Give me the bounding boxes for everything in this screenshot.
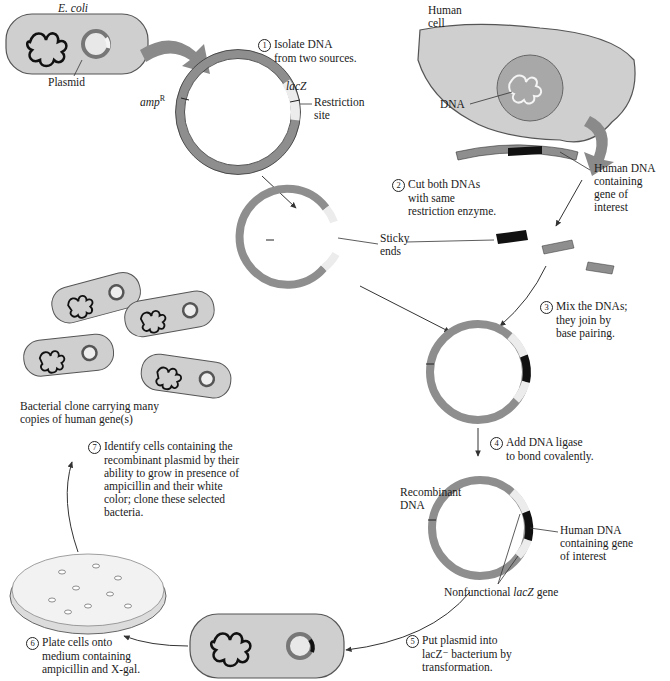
- ecoli-label: E. coli: [58, 2, 88, 15]
- step-7: 7Identify cells containing the recombina…: [88, 440, 239, 519]
- petri-plate: [10, 554, 166, 634]
- ecoli-cell: [6, 14, 148, 76]
- lacz-label: lacZ: [286, 80, 306, 93]
- nucleus: [497, 55, 563, 121]
- ampr-label: ampR: [140, 92, 165, 109]
- bacterial-clone-label: Bacterial clone carrying manycopies of h…: [20, 400, 159, 426]
- step-3: 3Mix the DNAs; they join by base pairing…: [540, 300, 628, 340]
- restriction-site-label: Restrictionsite: [314, 96, 364, 122]
- step-5: 5Put plasmid into lacZ⁻ bacterium by tra…: [406, 634, 512, 674]
- transformed-bacterium: [190, 614, 344, 678]
- plasmid-small: [83, 31, 109, 57]
- recombinant-dna-label: RecombinantDNA: [400, 486, 461, 512]
- bacterial-clone: [22, 269, 233, 400]
- human-cell: [418, 24, 635, 141]
- human-dna-goi2-label: Human DNAcontaining geneof interest: [560, 524, 633, 563]
- step-4: 4Add DNA ligase to bond covalently.: [490, 436, 594, 463]
- human-cell-label: Humancell: [428, 4, 462, 30]
- human-dna-goi-label: Human DNAcontaininggene ofinterest: [594, 162, 656, 214]
- human-dna-strand: [456, 145, 590, 170]
- sticky-ends-pointer: [338, 238, 378, 244]
- plasmid-large: [176, 50, 313, 175]
- nonfunctional-lacz-label: Nonfunctional lacZ gene: [444, 586, 558, 599]
- plasmid-label: Plasmid: [48, 76, 85, 89]
- cut-plasmid: [240, 189, 336, 285]
- step-6: 6Plate cells onto medium containing ampi…: [26, 636, 140, 676]
- step-1: 1Isolate DNA from two sources.: [258, 38, 357, 65]
- joined-plasmid: [426, 324, 527, 420]
- sticky-ends-label: Stickyends: [380, 232, 409, 258]
- step-2: 2Cut both DNAs with same restriction enz…: [392, 178, 496, 218]
- human-dna-fragments: [496, 230, 614, 274]
- dna-label: DNA: [440, 98, 465, 111]
